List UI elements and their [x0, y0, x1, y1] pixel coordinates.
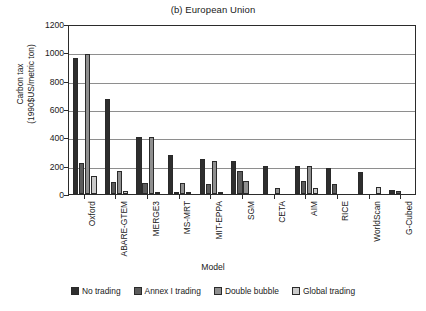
legend-item[interactable]: Annex I trading — [134, 286, 201, 296]
x-tick-label: MS-MRT — [182, 201, 192, 234]
bar — [136, 137, 141, 194]
bar — [117, 171, 122, 194]
bar-group — [227, 26, 259, 194]
legend-item[interactable]: Double bubble — [214, 286, 279, 296]
y-tick-label: 200 — [24, 162, 64, 172]
y-tick-mark — [64, 82, 69, 83]
legend-label: Global trading — [303, 286, 355, 296]
x-tick-mark — [400, 195, 401, 199]
bar — [237, 171, 242, 194]
legend-swatch-icon — [292, 287, 300, 295]
y-tick-mark — [64, 167, 69, 168]
bar — [180, 183, 185, 194]
bar — [168, 155, 173, 194]
y-tick-mark — [64, 53, 69, 54]
x-tick-label: RICE — [340, 201, 350, 221]
bar — [149, 137, 154, 194]
bar — [85, 54, 90, 194]
bar-group — [354, 26, 386, 194]
y-tick-mark — [64, 110, 69, 111]
bar — [79, 163, 84, 194]
x-tick-mark — [274, 195, 275, 199]
legend-swatch-icon — [134, 287, 142, 295]
y-tick-mark — [64, 25, 69, 26]
bar — [243, 181, 248, 194]
y-tick-label: 0 — [24, 190, 64, 200]
bar — [332, 184, 337, 194]
legend-swatch-icon — [214, 287, 222, 295]
x-tick-label: G-Cubed — [404, 201, 414, 235]
legend-label: Annex I trading — [145, 286, 201, 296]
x-tick-mark — [179, 195, 180, 199]
bar — [218, 192, 223, 194]
bar-group — [132, 26, 164, 194]
y-tick-mark — [64, 195, 69, 196]
chart-figure: (b) European Union Carbon tax (1990$US/m… — [0, 0, 426, 311]
bar — [376, 187, 381, 194]
legend-swatch-icon — [71, 287, 79, 295]
x-tick-mark — [242, 195, 243, 199]
bar — [313, 188, 318, 194]
x-tick-label: CETA — [277, 201, 287, 223]
bar — [358, 172, 363, 194]
bar — [91, 176, 96, 194]
bar — [301, 181, 306, 194]
x-tick-label: ABARE-GTEM — [119, 201, 129, 256]
legend-label: No trading — [82, 286, 121, 296]
bar — [200, 159, 205, 194]
bar-series-container — [69, 26, 415, 194]
bar — [231, 161, 236, 194]
x-tick-mark — [305, 195, 306, 199]
y-tick-label: 600 — [24, 105, 64, 115]
bar — [142, 183, 147, 194]
bar — [326, 168, 331, 194]
x-tick-mark — [115, 195, 116, 199]
bar — [73, 58, 78, 194]
bar — [275, 188, 280, 194]
bar — [307, 166, 312, 194]
bar — [389, 190, 394, 194]
bar-group — [290, 26, 322, 194]
legend-item[interactable]: Global trading — [292, 286, 355, 296]
x-tick-label: Oxford — [87, 201, 97, 226]
chart-legend: No tradingAnnex I tradingDouble bubbleGl… — [0, 286, 426, 296]
bar — [212, 161, 217, 194]
plot-area — [68, 25, 416, 195]
x-tick-label: MERGE3 — [151, 201, 161, 236]
bar — [263, 166, 268, 194]
bar-group — [259, 26, 291, 194]
x-tick-label: WorldScan — [372, 201, 382, 242]
legend-label: Double bubble — [225, 286, 279, 296]
y-tick-label: 400 — [24, 133, 64, 143]
x-tick-label: AIM — [309, 201, 319, 216]
x-tick-mark — [84, 195, 85, 199]
y-tick-label: 1000 — [24, 48, 64, 58]
bar — [295, 166, 300, 194]
bar-group — [196, 26, 228, 194]
x-tick-label: SGM — [246, 201, 256, 220]
bar — [111, 182, 116, 194]
bar — [206, 184, 211, 194]
bar — [155, 192, 160, 194]
chart-title: (b) European Union — [0, 4, 426, 15]
bar — [396, 191, 401, 194]
x-tick-mark — [210, 195, 211, 199]
x-tick-mark — [337, 195, 338, 199]
bar — [186, 192, 191, 194]
bar — [105, 99, 110, 194]
y-tick-label: 800 — [24, 77, 64, 87]
y-tick-mark — [64, 138, 69, 139]
x-tick-mark — [369, 195, 370, 199]
bar-group — [385, 26, 417, 194]
x-tick-label: MIT-EPPA — [214, 201, 224, 239]
bar-group — [69, 26, 101, 194]
y-tick-label: 1200 — [24, 20, 64, 30]
bar — [174, 192, 179, 194]
bar-group — [164, 26, 196, 194]
legend-item[interactable]: No trading — [71, 286, 121, 296]
x-tick-mark — [147, 195, 148, 199]
bar-group — [322, 26, 354, 194]
bar-group — [101, 26, 133, 194]
x-axis-title: Model — [0, 262, 426, 272]
bar — [123, 191, 128, 194]
